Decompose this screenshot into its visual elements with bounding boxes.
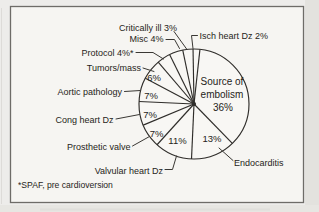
slice-pct-prosthetic: 7%	[150, 128, 164, 139]
label-isch: Isch heart Dz 2%	[200, 31, 269, 41]
label-source-line3: 36%	[213, 102, 233, 113]
label-source-line2: embolism	[201, 89, 244, 100]
scan-left-edge	[1, 8, 2, 204]
scanned-figure: Critically ill 3% Misc 4% Protocol 4%* T…	[0, 0, 319, 212]
pie-center-hub	[192, 102, 196, 106]
label-prosthetic: Prosthetic valve	[67, 142, 131, 152]
label-endocarditis: Endocarditis	[234, 158, 284, 168]
slice-pct-aortic: 7%	[144, 90, 158, 101]
label-valvular: Valvular heart Dz	[95, 166, 164, 176]
label-critically-ill: Critically ill 3%	[119, 23, 177, 33]
label-source-line1: Source of	[201, 76, 244, 87]
slice-pct-endocarditis: 13%	[202, 133, 222, 144]
pie-chart-canvas: Critically ill 3% Misc 4% Protocol 4%* T…	[0, 0, 319, 212]
label-protocol: Protocol 4%*	[81, 48, 134, 58]
label-misc: Misc 4%	[129, 34, 163, 44]
scan-bottom-smear	[40, 209, 270, 211]
slice-pct-cong: 7%	[143, 109, 157, 120]
label-aortic: Aortic pathology	[57, 87, 122, 97]
footnote: *SPAF, pre cardioversion	[18, 180, 113, 190]
slice-pct-valvular: 11%	[168, 135, 187, 146]
label-tumors: Tumors/mass	[87, 63, 142, 73]
label-cong: Cong heart Dz	[55, 115, 114, 125]
slice-pct-tumors: 6%	[147, 72, 161, 83]
scan-right-edge	[305, 0, 319, 212]
